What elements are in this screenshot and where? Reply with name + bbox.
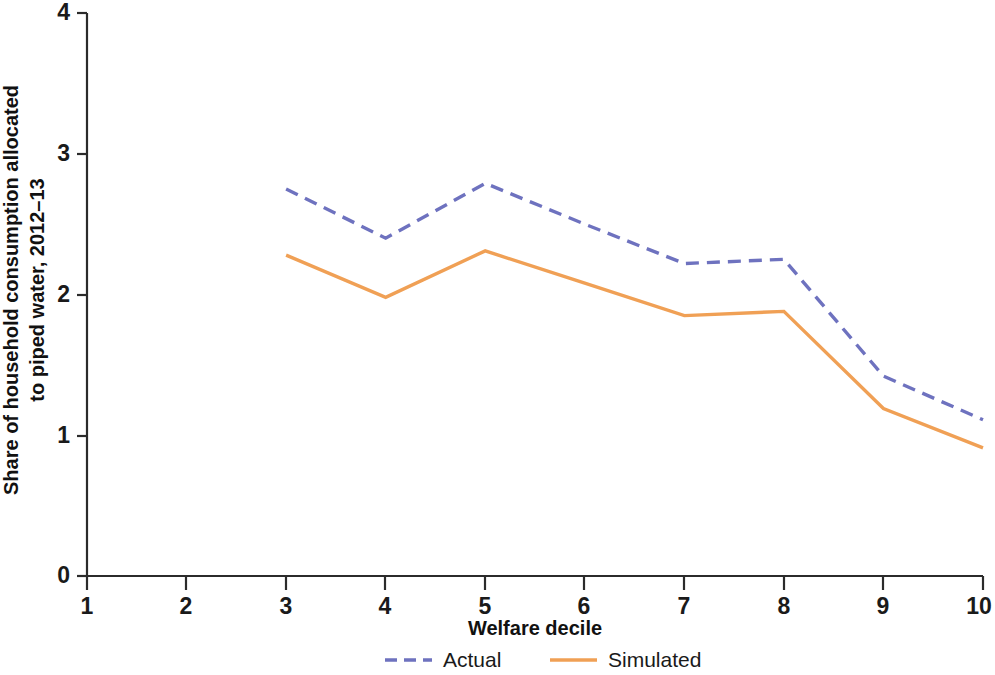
x-tick-label-6: 6 xyxy=(578,593,591,619)
x-tick-label-5: 5 xyxy=(479,593,492,619)
series-group xyxy=(286,183,983,448)
line-chart: Share of household consumption allocated… xyxy=(0,0,995,675)
series-line-simulated xyxy=(286,251,983,448)
x-tick-label-2: 2 xyxy=(180,593,193,619)
y-tick-label-4: 4 xyxy=(57,0,70,25)
y-axis-title-line2: to piped water, 2012–13 xyxy=(26,178,48,401)
chart-legend: Actual Simulated xyxy=(385,648,701,671)
legend-label-actual: Actual xyxy=(443,648,501,671)
x-tick-label-10: 10 xyxy=(966,593,992,619)
y-tick-label-1: 1 xyxy=(57,422,70,448)
x-tick-label-7: 7 xyxy=(678,593,691,619)
y-axis-title: Share of household consumption allocated… xyxy=(0,85,48,495)
x-axis-ticks: 1 2 3 4 5 6 7 8 9 10 xyxy=(81,576,992,619)
series-line-actual xyxy=(286,183,983,419)
x-tick-label-1: 1 xyxy=(81,593,94,619)
x-axis-title: Welfare decile xyxy=(468,617,602,639)
chart-container: Share of household consumption allocated… xyxy=(0,0,995,675)
x-tick-label-8: 8 xyxy=(778,593,791,619)
legend-label-simulated: Simulated xyxy=(608,648,701,671)
x-tick-label-9: 9 xyxy=(877,593,890,619)
y-tick-label-3: 3 xyxy=(57,140,70,166)
x-tick-label-3: 3 xyxy=(280,593,293,619)
y-tick-label-2: 2 xyxy=(57,281,70,307)
y-axis-title-line1: Share of household consumption allocated xyxy=(0,85,22,495)
y-tick-label-0: 0 xyxy=(57,562,70,588)
y-axis-ticks: 4 3 2 1 0 xyxy=(57,0,87,588)
x-tick-label-4: 4 xyxy=(379,593,392,619)
